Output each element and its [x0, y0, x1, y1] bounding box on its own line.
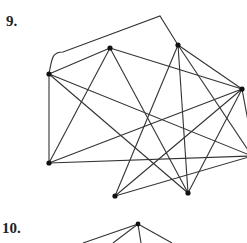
- edge-F-D: [115, 89, 242, 196]
- edge-D-H2: [242, 89, 247, 142]
- vertex-F: [112, 193, 117, 198]
- graph-diagram: [0, 0, 247, 243]
- edge-A-B: [49, 48, 110, 74]
- graph10-edge-1: [113, 224, 138, 243]
- edge-E-H: [49, 156, 247, 163]
- graph10-edge-3: [138, 224, 172, 243]
- graph10-edge-0: [83, 224, 138, 243]
- edge-B-D: [110, 48, 242, 89]
- graph10-vertex-T: [136, 222, 141, 227]
- edge-A-H: [49, 74, 247, 156]
- vertex-C: [175, 42, 180, 47]
- vertex-B: [107, 45, 112, 50]
- edge-B-E: [49, 48, 110, 163]
- graph10-edge-2: [138, 224, 141, 243]
- edge-A-G: [49, 74, 188, 193]
- edge-E-D: [49, 89, 242, 163]
- edge-F-H: [115, 156, 247, 196]
- vertex-G: [185, 190, 190, 195]
- edge-B-G: [110, 48, 188, 193]
- vertex-E: [46, 160, 51, 165]
- edge-C-G: [178, 45, 188, 193]
- vertex-A: [46, 71, 51, 76]
- edge-D-G: [188, 89, 242, 193]
- edge-C-D: [178, 45, 242, 89]
- edge-F-C: [115, 45, 178, 196]
- vertex-D: [239, 86, 244, 91]
